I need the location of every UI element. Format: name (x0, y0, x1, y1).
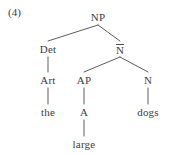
tree-edge-nbar-ap (84, 57, 120, 72)
tree-edge-np-nbar (98, 25, 120, 41)
tree-node-large: large (73, 139, 96, 150)
tree-node-a: A (80, 107, 88, 118)
tree-node-n: N (144, 75, 152, 86)
tree-edge-nbar-n (120, 57, 148, 72)
tree-node-det: Det (40, 44, 56, 55)
tree-node-ap: AP (77, 75, 91, 86)
tree-node-dogs: dogs (137, 107, 159, 118)
tree-node-art: Art (40, 75, 55, 86)
tree-node-np: NP (91, 12, 105, 23)
syntax-tree-figure: (4) NPDetNArtAPNtheAdogslarge (0, 0, 170, 155)
tree-node-nbar: N (116, 44, 124, 56)
tree-edge-np-det (48, 25, 98, 41)
tree-node-the: the (41, 107, 55, 118)
